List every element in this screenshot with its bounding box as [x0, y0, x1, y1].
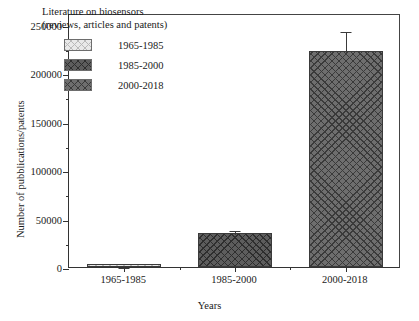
legend-label: 2000-2018: [118, 80, 164, 91]
y-tick-major: [63, 124, 69, 125]
legend-label: 1985-2000: [118, 60, 164, 71]
legend-swatch-1965-1985: [64, 39, 92, 51]
y-tick-minor: [66, 245, 70, 246]
legend-item-1985-2000: 1985-2000: [42, 57, 167, 73]
legend-item-1965-1985: 1965-1985: [42, 37, 167, 53]
legend-swatch-1985-2000: [64, 59, 92, 71]
y-tick-label: 100000: [31, 167, 63, 178]
y-axis-title: Number of pubblications/patents: [15, 100, 26, 238]
x-tick-minor: [180, 267, 181, 270]
x-tick-label: 1965-1985: [101, 274, 147, 285]
error-bar-2000-2018: [346, 32, 347, 52]
y-tick-major: [63, 269, 69, 270]
y-tick-minor: [66, 99, 70, 100]
legend-item-2000-2018: 2000-2018: [42, 77, 167, 93]
chart-figure: Number of pubblications/patents 05000010…: [0, 0, 419, 321]
x-tick-minor: [290, 267, 291, 270]
x-axis-title: Years: [0, 300, 419, 311]
legend-label: 1965-1985: [118, 40, 164, 51]
y-tick-label: 50000: [36, 215, 62, 226]
legend-title-line-2: (reviews, articles and patents): [42, 19, 167, 32]
chart-legend: Literature on biosensors (reviews, artic…: [42, 6, 167, 97]
bar-2000-2018: [309, 51, 383, 267]
x-tick-major: [235, 267, 236, 272]
legend-swatch-2000-2018: [64, 79, 92, 91]
x-tick-major: [346, 267, 347, 272]
y-tick-minor: [66, 196, 70, 197]
y-tick-label: 150000: [31, 118, 63, 129]
x-tick-label: 2000-2018: [322, 274, 368, 285]
y-tick-label: 0: [57, 264, 62, 275]
y-tick-minor: [66, 148, 70, 149]
error-bar-cap-1985-2000: [230, 231, 241, 232]
error-bar-cap-1965-1985: [119, 268, 130, 269]
x-tick-label: 1985-2000: [211, 274, 257, 285]
y-tick-major: [63, 221, 69, 222]
legend-entries: 1965-19851985-20002000-2018: [42, 37, 167, 93]
y-tick-major: [63, 172, 69, 173]
legend-title-line-1: Literature on biosensors: [42, 6, 167, 19]
bar-1985-2000: [198, 233, 272, 267]
error-bar-cap-2000-2018: [340, 32, 351, 33]
